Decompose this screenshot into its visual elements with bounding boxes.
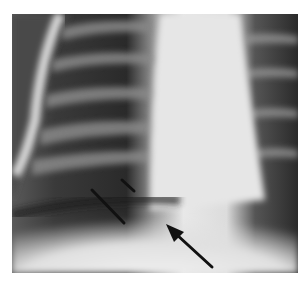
chest-xray-image (12, 14, 298, 273)
